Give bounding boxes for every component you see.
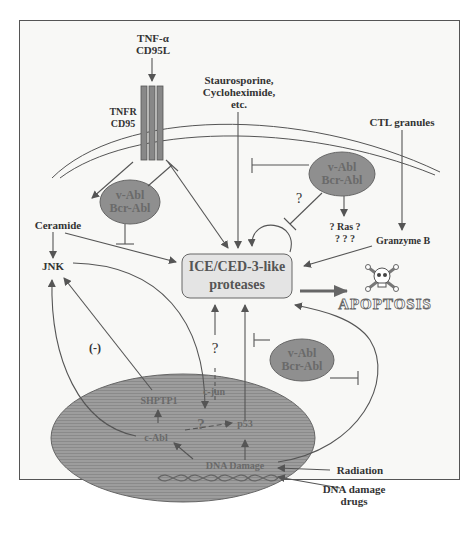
dna-drugs-label: DNA damage drugs — [314, 483, 394, 507]
dna-damage-label: DNA Damage — [198, 460, 272, 472]
bcr-abl-text: Bcr-Abl — [100, 202, 160, 215]
abl-left-label: v-Abl Bcr-Abl — [100, 189, 160, 215]
drug-staurosporine: Staurosporine, — [194, 74, 284, 86]
shptp1-label: SHPTP1 — [134, 395, 184, 407]
jnk-label: JNK — [38, 260, 68, 272]
negative-label: (-) — [85, 342, 105, 354]
ras-text: ? Ras ? — [322, 221, 368, 233]
ligand-cd95l: CD95L — [128, 44, 178, 56]
receptor-cd95: CD95 — [107, 118, 139, 130]
granzyme-label: Granzyme B — [370, 235, 436, 247]
bcr-abl-text: Bcr-Abl — [270, 360, 334, 373]
question-nucleus: ? — [194, 418, 208, 430]
drugs-label: Staurosporine, Cycloheximide, etc. — [194, 74, 284, 110]
ligand-tnf: TNF-α — [128, 32, 178, 44]
bcr-abl-text: Bcr-Abl — [309, 174, 375, 187]
skull-crossbones-icon — [366, 265, 399, 292]
ceramide-label: Ceramide — [30, 219, 86, 231]
p53-label: p53 — [232, 418, 258, 430]
receptor-label: TNFR CD95 — [107, 106, 139, 130]
ctl-label: CTL granules — [360, 116, 444, 128]
cjun-label: c-jun — [196, 386, 232, 398]
ligand-label: TNF-α CD95L — [128, 32, 178, 56]
protease-line2: proteases — [182, 276, 292, 294]
ras-label: ? Ras ? ? ? ? — [322, 221, 368, 245]
cabl-label: c-Abl — [138, 432, 174, 444]
receptor-icon — [141, 86, 163, 160]
abl-bottom-right-label: v-Abl Bcr-Abl — [270, 347, 334, 373]
protease-line1: ICE/CED-3-like — [182, 258, 292, 276]
radiation-label: Radiation — [332, 464, 388, 476]
dna-drugs-line1: DNA damage — [314, 483, 394, 495]
abl-top-right-label: v-Abl Bcr-Abl — [309, 161, 375, 187]
nucleus — [51, 374, 315, 502]
question-top: ? — [292, 193, 306, 205]
drug-cycloheximide: Cycloheximide, — [194, 86, 284, 98]
question-mid: ? — [207, 342, 223, 354]
ras-questions: ? ? ? — [322, 233, 368, 245]
apoptosis-label: APOPTOSIS — [330, 298, 440, 310]
protease-label: ICE/CED-3-like proteases — [182, 258, 292, 294]
receptor-tnfr: TNFR — [107, 106, 139, 118]
cell-membrane — [52, 124, 440, 178]
dna-drugs-line2: drugs — [314, 495, 394, 507]
drug-etc: etc. — [194, 98, 284, 110]
